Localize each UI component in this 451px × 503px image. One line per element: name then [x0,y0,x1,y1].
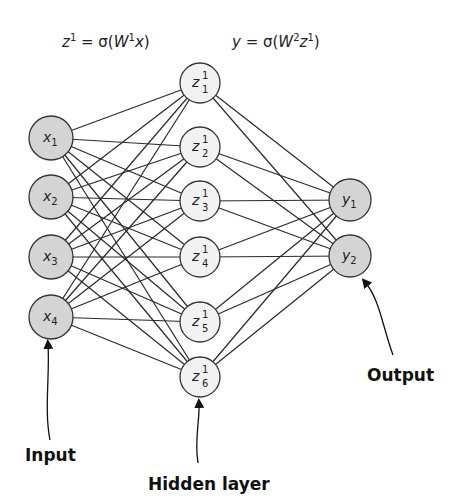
hidden-node-6: z16 [180,357,220,397]
hidden-node-5: z15 [180,302,220,342]
edge [200,147,350,256]
edge [51,257,200,317]
edge [200,83,350,200]
edge [200,200,350,377]
edge [200,200,350,322]
hidden-layer-label: Hidden layer [148,474,270,494]
edge [200,256,350,257]
edge [200,200,350,257]
input-arrow-icon [47,344,50,440]
hidden-arrow-icon [197,403,200,463]
edge [51,83,200,138]
output-arrow-icon [365,282,393,355]
edge [200,83,350,256]
output-node-1: y1 [329,179,371,221]
hidden-node-4: z14 [180,237,220,277]
hidden-node-2: z12 [180,127,220,167]
edge [200,256,350,377]
equation-hidden: z1 = σ(W1x) [61,32,150,51]
input-node-4: x4 [29,295,73,339]
input-node-3: x3 [29,235,73,279]
output-label: Output [367,365,434,385]
edge [200,147,350,200]
neural-network-diagram: z1 = σ(W1x) y = σ(W2z1) x1x2x3x4z11z12z1… [0,0,451,503]
hidden-node-1: z11 [180,63,220,103]
output-node-2: y2 [329,235,371,277]
equation-output: y = σ(W2z1) [231,32,320,51]
network-nodes: x1x2x3x4z11z12z13z14z15z16y1y2 [29,63,371,397]
edge [51,317,200,377]
edge [200,200,350,201]
edge [51,147,200,257]
hidden-node-3: z13 [180,181,220,221]
input-node-2: x2 [29,175,73,219]
input-label: Input [25,445,76,465]
edge [51,257,200,322]
input-node-1: x1 [29,116,73,160]
